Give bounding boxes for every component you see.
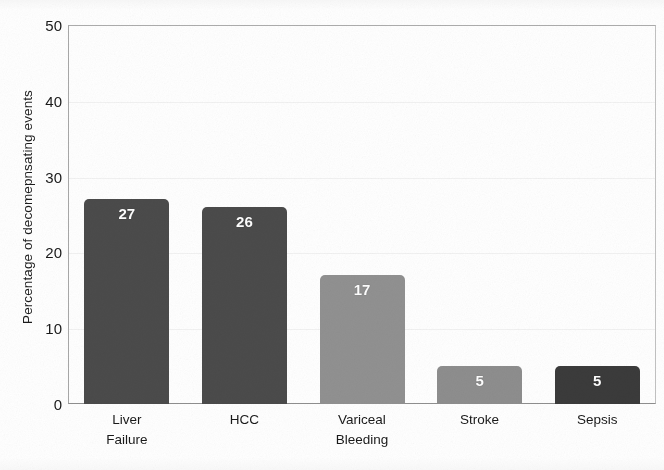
y-tick-label: 50: [22, 18, 62, 33]
x-tick-label: LiverFailure: [68, 410, 186, 449]
bar: 17: [320, 275, 405, 404]
x-axis-tick-labels: LiverFailureHCCVaricealBleedingStrokeSep…: [68, 410, 656, 468]
x-tick-label-line: Sepsis: [538, 410, 656, 430]
x-tick-label-line: Variceal: [303, 410, 421, 430]
x-tick-label: Stroke: [421, 410, 539, 430]
x-tick-label: VaricealBleeding: [303, 410, 421, 449]
y-tick-label: 20: [22, 245, 62, 260]
y-tick-label: 10: [22, 321, 62, 336]
bar: 5: [437, 366, 522, 404]
x-tick-label-line: Stroke: [421, 410, 539, 430]
bar-value-label: 26: [202, 214, 287, 231]
bar-chart-figure: Percentage of decomepnsating events 0102…: [0, 0, 664, 470]
bar: 5: [555, 366, 640, 404]
bar: 26: [202, 207, 287, 404]
x-tick-label: HCC: [186, 410, 304, 430]
bars-layer: 27261755: [68, 25, 656, 404]
x-tick-label-line: Failure: [68, 430, 186, 450]
y-tick-label: 0: [22, 397, 62, 412]
x-tick-label-line: HCC: [186, 410, 304, 430]
bar-value-label: 27: [84, 206, 169, 223]
bar-value-label: 5: [437, 373, 522, 390]
x-tick-label: Sepsis: [538, 410, 656, 430]
y-tick-label: 40: [22, 93, 62, 108]
x-tick-label-line: Bleeding: [303, 430, 421, 450]
x-tick-label-line: Liver: [68, 410, 186, 430]
bar: 27: [84, 199, 169, 404]
y-tick-label: 30: [22, 169, 62, 184]
y-axis-tick-labels: 01020304050: [18, 0, 62, 470]
bar-value-label: 5: [555, 373, 640, 390]
bar-value-label: 17: [320, 282, 405, 299]
